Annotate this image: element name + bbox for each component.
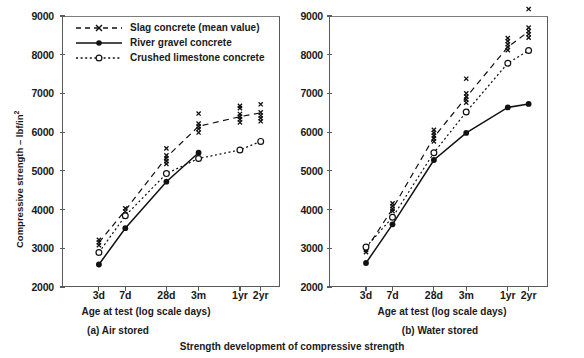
data-point-cross xyxy=(527,26,531,30)
legend-item-slag-concrete: Slag concrete (mean value) xyxy=(74,20,284,35)
x-tick-label: 2yr xyxy=(253,290,269,301)
x-tick-label: 1yr xyxy=(232,290,248,301)
data-point-cross xyxy=(97,238,101,242)
y-tick-mark xyxy=(60,170,65,171)
x-axis-title-air-stored: Age at test (log scale days) xyxy=(82,306,211,317)
chart-panel-water-stored: 20003000400050006000700080009000 3d7d28d… xyxy=(292,0,584,358)
legend-key-dashed-cross-icon xyxy=(74,21,126,35)
data-point-open-circle xyxy=(463,109,469,115)
data-point-filled-circle xyxy=(164,179,170,185)
y-tick-mark xyxy=(327,132,332,133)
y-tick-label: 7000 xyxy=(277,88,323,99)
data-point-open-circle xyxy=(526,48,532,54)
data-point-cross xyxy=(506,36,510,40)
y-tick-label: 9000 xyxy=(277,11,323,22)
data-point-cross xyxy=(164,146,168,150)
x-tick-label: 7d xyxy=(386,290,398,301)
y-axis-title-air-stored: Compressive strength – lbf/in2 xyxy=(13,111,25,248)
data-point-filled-circle xyxy=(122,225,128,231)
legend-key-solid-filled-circle-icon xyxy=(74,36,126,50)
data-point-cross xyxy=(464,91,468,95)
series-line xyxy=(99,113,261,243)
x-tick-label: 28d xyxy=(157,290,175,301)
y-tick-label: 2000 xyxy=(8,282,54,293)
x-tick-label: 3m xyxy=(459,290,474,301)
x-tick-label: 2yr xyxy=(521,290,537,301)
data-point-cross xyxy=(390,201,394,205)
y-tick-mark xyxy=(60,93,65,94)
y-tick-mark xyxy=(60,286,65,287)
data-point-filled-circle xyxy=(463,130,469,136)
x-tick-mark xyxy=(466,287,467,291)
x-tick-mark xyxy=(260,287,261,291)
x-axis-title-water-stored: Age at test (log scale days) xyxy=(378,306,507,317)
data-point-cross xyxy=(197,111,201,115)
data-point-open-circle xyxy=(164,171,170,177)
series-line xyxy=(99,153,199,265)
y-tick-mark xyxy=(327,54,332,55)
y-tick-mark xyxy=(327,15,332,16)
y-tick-mark xyxy=(327,170,332,171)
x-tick-label: 3d xyxy=(360,290,372,301)
legend-label-slag-concrete: Slag concrete (mean value) xyxy=(126,23,260,33)
x-tick-mark xyxy=(365,287,366,291)
legend-label-crushed-limestone-concrete: Crushed limestone concrete xyxy=(126,53,264,63)
data-point-open-circle xyxy=(363,244,369,250)
x-tick-label: 7d xyxy=(119,290,131,301)
y-tick-mark xyxy=(327,286,332,287)
y-tick-label: 3000 xyxy=(277,243,323,254)
data-point-open-circle xyxy=(505,60,511,66)
x-tick-mark xyxy=(98,287,99,291)
x-tick-mark xyxy=(239,287,240,291)
data-point-filled-circle xyxy=(390,221,396,227)
figure-compressive-strength: 20003000400050006000700080009000 3d7d28d… xyxy=(0,0,584,358)
y-tick-mark xyxy=(327,209,332,210)
data-point-open-circle xyxy=(258,139,264,145)
x-tick-label: 28d xyxy=(425,290,443,301)
series-line xyxy=(99,141,261,252)
data-point-cross xyxy=(464,77,468,81)
x-tick-label: 3m xyxy=(191,290,206,301)
data-point-open-circle xyxy=(196,156,202,162)
panel-caption-air-stored: (a) Air stored xyxy=(87,325,149,336)
y-tick-label: 9000 xyxy=(8,11,54,22)
data-point-cross xyxy=(259,110,263,114)
x-tick-mark xyxy=(166,287,167,291)
x-tick-mark xyxy=(392,287,393,291)
plot-area-water-stored xyxy=(329,16,548,287)
legend-key-dotted-open-circle-icon xyxy=(74,51,126,65)
y-tick-mark xyxy=(60,209,65,210)
x-tick-mark xyxy=(528,287,529,291)
x-tick-mark xyxy=(433,287,434,291)
legend-label-river-gravel-concrete: River gravel concrete xyxy=(126,38,232,48)
data-point-cross xyxy=(259,102,263,106)
legend-item-crushed-limestone-concrete: Crushed limestone concrete xyxy=(74,50,284,65)
y-tick-label: 8000 xyxy=(277,49,323,60)
data-point-filled-circle xyxy=(363,260,369,266)
figure-caption: Strength development of compressive stre… xyxy=(180,341,405,352)
data-point-open-circle xyxy=(237,147,243,153)
data-point-filled-circle xyxy=(505,105,511,111)
data-point-filled-circle xyxy=(431,157,437,163)
y-tick-label: 2000 xyxy=(277,282,323,293)
data-point-cross xyxy=(197,122,201,126)
y-tick-label: 6000 xyxy=(277,127,323,138)
data-point-cross xyxy=(238,112,242,116)
data-point-open-circle xyxy=(96,250,102,256)
y-tick-label: 5000 xyxy=(277,166,323,177)
y-tick-mark xyxy=(327,248,332,249)
data-point-open-circle xyxy=(431,150,437,156)
y-tick-mark xyxy=(60,248,65,249)
x-tick-mark xyxy=(507,287,508,291)
y-tick-label: 7000 xyxy=(8,88,54,99)
y-tick-label: 4000 xyxy=(277,204,323,215)
legend-item-river-gravel-concrete: River gravel concrete xyxy=(74,35,284,50)
x-tick-label: 1yr xyxy=(500,290,516,301)
data-point-open-circle xyxy=(390,214,396,220)
chart-panel-air-stored: 20003000400050006000700080009000 3d7d28d… xyxy=(0,0,292,358)
x-tick-label: 3d xyxy=(93,290,105,301)
y-tick-mark xyxy=(60,54,65,55)
y-tick-mark xyxy=(327,93,332,94)
data-point-cross xyxy=(432,128,436,132)
y-tick-mark xyxy=(60,15,65,16)
